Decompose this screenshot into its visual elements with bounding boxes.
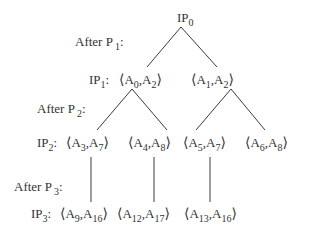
node-l1-0: ⟨A0,A2⟩ — [119, 73, 162, 87]
node-l3-1: ⟨A12,A17⟩ — [117, 207, 170, 221]
edge-l1a-l2b — [132, 89, 167, 130]
letter: A — [133, 135, 142, 150]
node-l3-2: ⟨A13,A16⟩ — [184, 207, 237, 221]
letter: A — [196, 72, 205, 87]
letter: A — [206, 135, 215, 150]
letter: A — [250, 135, 259, 150]
letter: A — [145, 206, 154, 221]
letter: A — [212, 206, 221, 221]
level-base: IP — [31, 206, 43, 221]
letter: A — [189, 206, 198, 221]
sub-a: 12 — [132, 213, 142, 224]
tree-edges — [0, 0, 312, 238]
parse-tree-diagram: IP0 After P1: IP1: ⟨A0,A2⟩ ⟨A1,A2⟩ After… — [0, 0, 312, 238]
edge-l1b-l2d — [231, 89, 265, 130]
edge-l1b-l2c — [196, 89, 231, 130]
root-sub: 0 — [189, 17, 194, 28]
root-node: IP0 — [177, 11, 194, 25]
angle-close: ⟩ — [166, 135, 171, 150]
level-base: IP — [89, 72, 101, 87]
angle-close: ⟩ — [103, 206, 108, 221]
edge-root-right — [181, 27, 217, 67]
step-label-p3: After P3: — [14, 180, 63, 194]
step-text: After P — [75, 34, 113, 49]
letter: A — [188, 135, 197, 150]
angle-close: ⟩ — [232, 206, 237, 221]
angle-close: ⟩ — [221, 135, 226, 150]
step-label-p2: After P2: — [37, 102, 86, 116]
node-l1-1: ⟨A1,A2⟩ — [191, 73, 234, 87]
step-text: After P — [37, 101, 75, 116]
node-l2-2: ⟨A5,A7⟩ — [183, 136, 226, 150]
letter: A — [65, 206, 74, 221]
step-label-p1: After P1: — [75, 35, 124, 49]
letter: A — [83, 206, 92, 221]
letter: A — [151, 135, 160, 150]
letter: A — [214, 72, 223, 87]
step-suffix: : — [120, 34, 124, 49]
level-suffix: : — [54, 135, 58, 150]
node-l3-0: ⟨A9,A16⟩ — [60, 207, 108, 221]
level-base: IP — [37, 135, 49, 150]
angle-close: ⟩ — [165, 206, 170, 221]
angle-close: ⟩ — [157, 72, 162, 87]
level-label-ip1: IP1: — [89, 73, 109, 87]
letter: A — [268, 135, 277, 150]
sub-a: 13 — [199, 213, 209, 224]
letter: A — [124, 72, 133, 87]
level-suffix: : — [48, 206, 52, 221]
edge-root-left — [147, 27, 181, 67]
angle-close: ⟩ — [229, 72, 234, 87]
level-label-ip2: IP2: — [37, 136, 57, 150]
level-suffix: : — [106, 72, 110, 87]
node-l2-3: ⟨A6,A8⟩ — [245, 136, 288, 150]
angle-close: ⟩ — [104, 135, 109, 150]
node-l2-0: ⟨A3,A7⟩ — [66, 136, 109, 150]
step-suffix: : — [59, 179, 63, 194]
step-text: After P — [14, 179, 52, 194]
letter: A — [142, 72, 151, 87]
sub-b: 17 — [155, 213, 165, 224]
edge-l1a-l2a — [97, 89, 132, 130]
node-l2-1: ⟨A4,A8⟩ — [128, 136, 171, 150]
sub-b: 16 — [222, 213, 232, 224]
level-label-ip3: IP3: — [31, 207, 51, 221]
letter: A — [89, 135, 98, 150]
letter: A — [122, 206, 131, 221]
letter: A — [71, 135, 80, 150]
step-suffix: : — [82, 101, 86, 116]
angle-close: ⟩ — [283, 135, 288, 150]
root-base: IP — [177, 10, 189, 25]
sub-b: 16 — [93, 213, 103, 224]
